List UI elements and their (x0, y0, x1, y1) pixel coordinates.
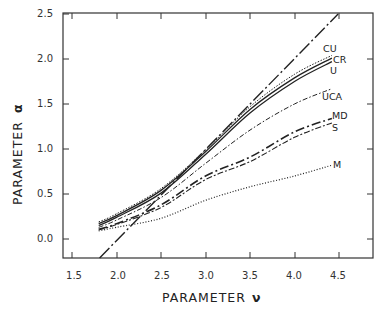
series-line-reference-line (100, 14, 339, 258)
y-axis-title: PARAMETER α (10, 103, 25, 205)
x-tick-label: 3.0 (198, 270, 214, 281)
x-tick-label: 4.0 (286, 270, 302, 281)
y-tick-label: 1.0 (37, 143, 53, 154)
y-tick-label: 2.5 (37, 8, 53, 19)
x-axis-ticks (72, 13, 339, 258)
label-s: S (332, 122, 338, 133)
chart-canvas: 2.5 2.0 1.5 1.0 0.5 0.0 1.5 2.0 2.5 3.0 … (0, 0, 386, 310)
x-tick-label: 4.5 (330, 270, 346, 281)
y-tick-labels: 2.5 2.0 1.5 1.0 0.5 0.0 (37, 8, 53, 244)
x-tick-label: 1.5 (66, 270, 82, 281)
x-tick-labels: 1.5 2.0 2.5 3.0 3.5 4.0 4.5 (66, 270, 346, 281)
x-tick-label: 3.5 (242, 270, 258, 281)
x-axis-title-symbol: ν (252, 290, 262, 305)
x-tick-label: 2.0 (110, 270, 126, 281)
label-uca: UCA (322, 91, 343, 102)
x-tick-label: 2.5 (154, 270, 170, 281)
label-cu: CU (323, 43, 337, 54)
x-axis-title-text: PARAMETER (162, 290, 246, 305)
series-line-cr (99, 58, 332, 224)
series-layer (99, 14, 338, 258)
series-line-md (99, 118, 332, 229)
label-m: M (333, 159, 341, 170)
series-labels: CU CR U UCA MD S M (322, 43, 348, 170)
y-axis-title-symbol: α (10, 103, 25, 113)
label-cr: CR (333, 54, 347, 65)
y-tick-label: 1.5 (37, 98, 53, 109)
label-u: U (330, 65, 337, 76)
y-tick-label: 0.0 (37, 233, 53, 244)
series-line-u (99, 62, 332, 226)
label-md: MD (332, 110, 348, 121)
x-axis-title: PARAMETER ν (162, 290, 262, 305)
y-tick-label: 2.0 (37, 53, 53, 64)
y-axis-title-text: PARAMETER (10, 121, 25, 205)
y-tick-label: 0.5 (37, 188, 53, 199)
